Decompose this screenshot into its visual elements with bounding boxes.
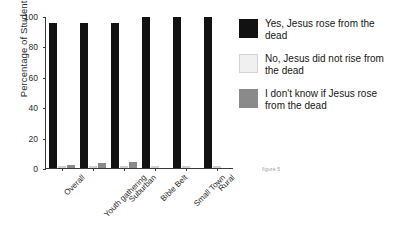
bar-group <box>46 17 77 168</box>
legend-item-0[interactable]: Yes, Jesus rose from the dead <box>239 18 399 41</box>
y-axis-tick-labels: 020406080100 <box>0 17 44 169</box>
y-tick-60: 60 <box>29 73 38 83</box>
x-label-cell: Bible Belt <box>139 169 170 231</box>
y-tick-100: 100 <box>24 12 38 22</box>
legend-item-2[interactable]: I don't know if Jesus rose from the dead <box>239 88 399 111</box>
y-tickmark-40 <box>43 108 46 109</box>
bar-chart-figure: Percentage of Students 020406080100 Over… <box>0 0 403 236</box>
y-tickmark-100 <box>43 17 46 18</box>
legend-swatch-1 <box>239 54 258 73</box>
legend-swatch-0 <box>239 19 258 38</box>
bar-youth-gathering-series-0[interactable] <box>80 23 88 168</box>
bar-overall-series-2[interactable] <box>67 165 75 168</box>
legend-label-2: I don't know if Jesus rose from the dead <box>265 88 390 111</box>
y-tickmark-20 <box>43 139 46 140</box>
x-axis-tick-labels: OverallYouth gatheringSuburbanBible Belt… <box>45 169 233 231</box>
bar-group <box>108 17 139 168</box>
bar-suburban-series-0[interactable] <box>111 23 119 168</box>
bar-group <box>140 17 171 168</box>
bar-overall-series-0[interactable] <box>49 23 57 168</box>
x-label-rural: Rural <box>217 173 237 193</box>
chart-legend: Yes, Jesus rose from the deadNo, Jesus d… <box>239 18 399 123</box>
legend-swatch-2 <box>239 89 258 108</box>
bar-small-town-series-0[interactable] <box>173 17 181 168</box>
figure-caption: figure 5 <box>262 166 280 172</box>
y-tick-40: 40 <box>29 103 38 113</box>
bar-bible-belt-series-0[interactable] <box>142 17 150 168</box>
x-label-cell: Overall <box>45 169 76 231</box>
plot-area <box>45 17 233 169</box>
x-label-cell: Rural <box>202 169 233 231</box>
x-label-cell: Small Town <box>170 169 201 231</box>
bar-rural-series-0[interactable] <box>204 17 212 168</box>
y-tick-20: 20 <box>29 134 38 144</box>
bar-youth-gathering-series-2[interactable] <box>98 163 106 168</box>
x-label-cell: Youth gathering <box>76 169 107 231</box>
y-tickmark-60 <box>43 78 46 79</box>
bar-group <box>202 17 233 168</box>
bar-group <box>171 17 202 168</box>
legend-label-0: Yes, Jesus rose from the dead <box>265 18 390 41</box>
bar-group <box>77 17 108 168</box>
x-label-cell: Suburban <box>108 169 139 231</box>
legend-item-1[interactable]: No, Jesus did not rise from the dead <box>239 53 399 76</box>
bar-suburban-series-2[interactable] <box>129 162 137 168</box>
y-tickmark-80 <box>43 47 46 48</box>
y-tick-0: 0 <box>33 164 38 174</box>
y-tick-80: 80 <box>29 42 38 52</box>
legend-label-1: No, Jesus did not rise from the dead <box>265 53 390 76</box>
bar-groups <box>46 17 233 168</box>
